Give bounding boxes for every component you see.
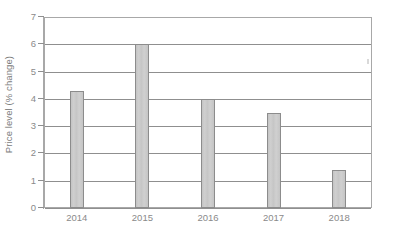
y-axis-tick-label: 3 (31, 121, 36, 131)
gridline (45, 208, 371, 209)
gridline (45, 126, 371, 127)
gridline (45, 72, 371, 73)
x-axis-tick-label-group: 20142015201620172018 (44, 210, 372, 230)
x-axis-tick-label: 2014 (66, 212, 87, 223)
gridline (45, 44, 371, 45)
bar-chart-figure: Price level (% change) 01234567 20142015… (0, 0, 394, 239)
y-axis-tick-label: 5 (31, 67, 36, 77)
gridline (45, 181, 371, 182)
y-axis-tick-label: 6 (31, 40, 36, 50)
x-axis-tick-label: 2018 (329, 212, 350, 223)
x-axis-tick-label: 2017 (263, 212, 284, 223)
plot-area (44, 17, 372, 208)
y-axis-tick-label: 1 (31, 176, 36, 186)
y-axis-title-label: Price level (% change) (4, 55, 15, 152)
gridline-group (45, 18, 371, 207)
gridline (45, 153, 371, 154)
gridline (45, 99, 371, 100)
x-axis-tick-label: 2015 (132, 212, 153, 223)
y-axis-tick-label: 0 (31, 203, 36, 213)
y-axis-tick-label-group: 01234567 (18, 0, 40, 239)
y-axis-tick-label: 7 (31, 12, 36, 22)
stray-artifact-mark (367, 59, 369, 64)
y-axis-tick-label: 4 (31, 94, 36, 104)
y-axis-tick-label: 2 (31, 149, 36, 159)
x-axis-tick-label: 2016 (197, 212, 218, 223)
y-axis-title: Price level (% change) (0, 0, 18, 208)
